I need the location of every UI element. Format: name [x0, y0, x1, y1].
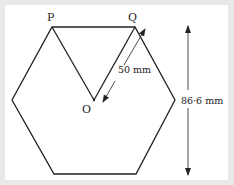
vertex-p-label: P: [47, 11, 55, 24]
radius-dimension-arrow: [124, 29, 145, 65]
hexagon-diagram: P Q O 50 mm 86·6 mm: [0, 0, 234, 185]
vertex-q-label: Q: [128, 11, 137, 24]
center-point: [93, 99, 95, 101]
height-dimension-label: 86·6 mm: [181, 95, 223, 106]
center-o-label: O: [82, 103, 91, 116]
radius-dimension-arrow-lower: [103, 81, 115, 102]
radius-dimension-label: 50 mm: [118, 64, 151, 75]
line-p-to-o: [52, 27, 94, 100]
